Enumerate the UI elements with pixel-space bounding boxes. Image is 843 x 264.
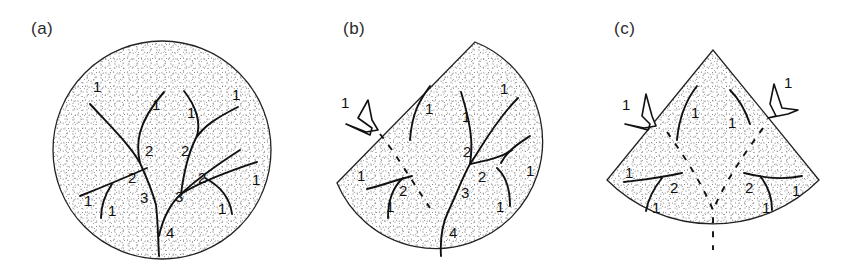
order-number: 2 [145,142,153,159]
order-number: 1 [728,114,736,131]
order-number: 1 [152,96,160,113]
order-number: 1 [252,171,260,188]
order-number: 2 [670,179,678,196]
order-number: 1 [462,108,470,125]
order-number: 1 [425,100,433,117]
order-number: 1 [386,198,394,215]
order-number: 3 [140,189,148,206]
panel-c-basin: 1 1 1 1 1 2 1 2 1 1 [607,50,819,250]
order-number: 2 [745,179,753,196]
order-number: 1 [84,192,92,209]
order-number: 3 [175,188,183,205]
order-number: 1 [792,182,800,199]
order-number: 2 [463,143,471,160]
panel-c-capture-arrow-left-icon: 1 [622,94,656,130]
panel-c-capture-arrow-right-icon: 1 [768,74,798,118]
order-number: 2 [399,182,407,199]
order-number: 1 [108,202,116,219]
order-number: 1 [762,199,770,216]
panel-b-basin: 1 1 1 1 2 1 2 1 2 3 1 1 4 [337,42,543,256]
order-number: 1 [232,86,240,103]
order-number: 2 [198,169,206,186]
order-number: 1 [691,104,699,121]
order-number: 3 [461,184,469,201]
order-number: 1 [652,199,660,216]
arrow-label: 1 [341,94,349,111]
order-number: 4 [166,224,174,241]
arrow-label: 1 [784,74,792,91]
order-number: 1 [500,80,508,97]
order-number: 1 [357,167,365,184]
order-number: 1 [496,198,504,215]
order-number: 1 [625,164,633,181]
panel-b-capture-arrow-icon: 1 [341,94,378,135]
diagram-canvas: 1 1 1 1 2 2 2 2 3 3 1 1 1 1 4 [0,0,843,264]
order-number: 1 [187,104,195,121]
order-number: 1 [526,162,534,179]
order-number: 2 [181,142,189,159]
stream-order-diagram: (a) (b) (c) [0,0,843,264]
panel-a-basin: 1 1 1 1 2 2 2 2 3 3 1 1 1 1 4 [53,41,271,259]
order-number: 1 [218,200,226,217]
order-number: 4 [449,224,457,241]
arrow-label: 1 [622,96,630,113]
order-number: 2 [478,168,486,185]
order-number: 2 [128,169,136,186]
order-number: 1 [93,78,101,95]
